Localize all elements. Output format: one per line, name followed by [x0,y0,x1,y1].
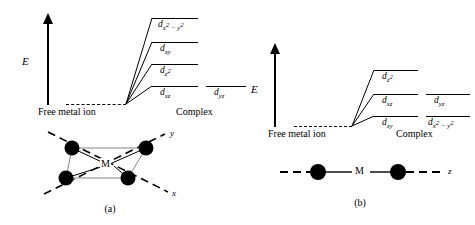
level-label-dx2-y2-a: dx2 − y2 [158,19,184,31]
panel-square-planar: E dx2 − y2 dxy dz2 dxz dyz Free metal io… [0,0,250,225]
level-label-dxz-a: dxz [160,87,170,99]
metal-center-label-b: M [354,165,365,176]
level-label-dz2-b: dz2 [382,71,393,83]
level-dz2-a [152,64,198,65]
metal-center-label-a: M [100,158,111,169]
level-label-dyz-b: dyz [434,95,444,107]
level-dxy-a [152,42,198,43]
axis-x-label: x [172,188,176,198]
ligand-atom [59,171,74,186]
panel-caption-a: (a) [90,203,130,214]
level-label-dxy-a: dxy [160,43,171,55]
complex-label-b: Complex [396,128,433,139]
square-planar-geometry [0,118,250,208]
level-dxz-b [374,94,418,95]
free-ion-label-b: Free metal ion [268,128,326,139]
level-label-dxy-b: dxy [382,117,393,129]
level-dz2-b [374,70,418,71]
level-dxy-b [374,116,418,117]
axis-y-label: y [170,128,174,138]
panel-linear: E dz2 dxz dyz dxy dx2 − y2 Free metal io… [248,0,475,225]
ligand-atom [390,164,406,180]
level-label-dxz-b: dxz [382,95,392,107]
ligand-atom [310,164,326,180]
panel-caption-b: (b) [340,197,380,208]
level-label-dz2-a: dz2 [160,65,171,77]
ligand-atom [65,141,80,156]
free-ion-label-a: Free metal ion [38,106,96,117]
level-dyz-a [206,86,246,87]
complex-label-a: Complex [176,106,213,117]
level-label-dyz-a: dyz [214,87,224,99]
level-dxz-a [152,86,198,87]
axis-z-label: z [448,166,452,176]
level-dyz-b [426,94,470,95]
ligand-atom [121,171,136,186]
ligand-atom [139,141,154,156]
